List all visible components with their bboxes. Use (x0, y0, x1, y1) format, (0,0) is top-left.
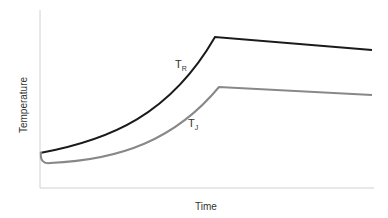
tj-label: TJ (188, 117, 198, 131)
tr-curve (40, 37, 372, 153)
tr-label: TR (175, 58, 187, 72)
x-axis-label: Time (195, 201, 217, 212)
tj-curve (41, 87, 372, 163)
temperature-time-diagram: TR TJ Temperature Time (0, 0, 388, 218)
y-axis-label: Temperature (18, 76, 29, 133)
